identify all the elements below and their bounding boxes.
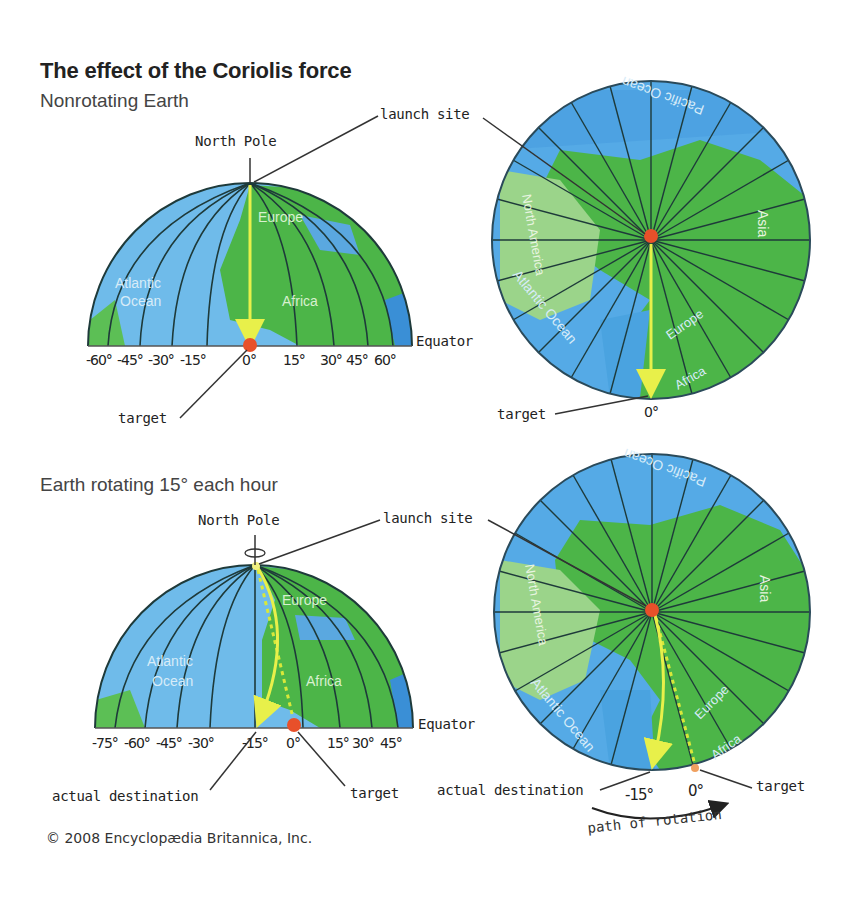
tick-label: -30° <box>148 352 174 368</box>
svg-text:Atlantic: Atlantic <box>147 653 193 669</box>
tick-label: 0° <box>286 735 300 751</box>
tick-label: 0° <box>242 352 256 368</box>
north-pole-label-rotating: North Pole <box>198 512 279 528</box>
tick-label: 15° <box>327 735 349 751</box>
svg-text:Africa: Africa <box>306 673 342 689</box>
target-dot <box>287 718 301 732</box>
equator-label: Equator <box>416 333 473 349</box>
tick-label: 45° <box>380 735 402 751</box>
launch-site-label-rotating: launch site <box>383 510 472 526</box>
tick-label: -60° <box>124 735 150 751</box>
target-label: target <box>118 410 167 426</box>
target-dot <box>243 338 257 352</box>
svg-text:Europe: Europe <box>258 209 303 225</box>
actual-destination-label: actual destination <box>52 788 198 804</box>
tick-label: -15° <box>242 735 268 751</box>
polar-target-label-rotating: target <box>756 778 805 794</box>
tick-label: -75° <box>92 735 118 751</box>
svg-text:Asia: Asia <box>755 210 771 237</box>
hemisphere-nonrotating: Europe Atlantic Ocean Africa <box>80 116 420 418</box>
tick-label: -15° <box>180 352 206 368</box>
tick-label: 15° <box>283 352 305 368</box>
tick-label: 60° <box>374 352 396 368</box>
launch-site-dot <box>644 229 658 243</box>
svg-text:Atlantic: Atlantic <box>115 275 161 291</box>
equator-label-rotating: Equator <box>418 716 475 732</box>
svg-text:Africa: Africa <box>282 293 318 309</box>
north-pole-label: North Pole <box>195 133 276 149</box>
polar-target-label: target <box>497 406 546 422</box>
tick-label: -60° <box>86 352 112 368</box>
tick-label: -30° <box>188 735 214 751</box>
tick-label: -45° <box>156 735 182 751</box>
tick-label: -45° <box>117 352 143 368</box>
tick-label: 30° <box>320 352 342 368</box>
svg-text:Asia: Asia <box>757 575 773 602</box>
polar-target-longitude: 0° <box>644 404 658 420</box>
copyright-notice: © 2008 Encyclopædia Britannica, Inc. <box>46 830 312 846</box>
launch-site-dot <box>645 603 659 617</box>
coriolis-diagram: Europe Atlantic Ocean Africa <box>0 0 866 900</box>
tick-label: 30° <box>352 735 374 751</box>
tick-label: 45° <box>346 352 368 368</box>
target-label-rotating: target <box>350 785 399 801</box>
rotation-label: path of rotation <box>587 806 723 836</box>
polar-actual-longitude: -15° <box>625 786 653 804</box>
svg-text:Europe: Europe <box>282 592 327 608</box>
launch-site-label: launch site <box>380 106 469 122</box>
globe-nonrotating: Pacific Ocean Asia North America Atlanti… <box>483 74 815 414</box>
svg-text:Ocean: Ocean <box>120 293 161 309</box>
polar-actual-destination-label: actual destination <box>437 782 583 798</box>
svg-text:Ocean: Ocean <box>152 673 193 689</box>
polar-target-longitude-rotating: 0° <box>688 782 703 800</box>
